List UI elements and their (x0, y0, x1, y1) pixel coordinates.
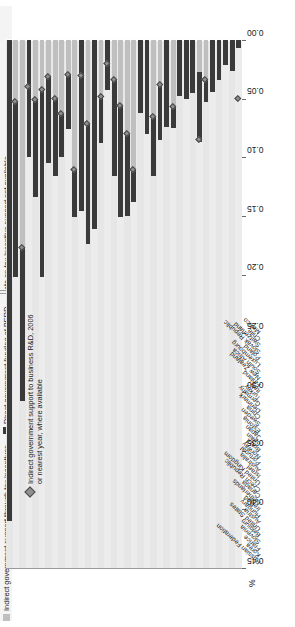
annotation-text: Indirect government support to business … (26, 314, 45, 484)
bar-row (177, 40, 182, 568)
category-axis: Russian FederationKoreaFranceSloveniaBel… (243, 41, 295, 569)
bar-row (210, 40, 215, 568)
bar-segment-indirect (118, 40, 123, 106)
bar-segment-direct (171, 107, 176, 128)
bar-row (164, 40, 169, 568)
bar-segment-direct (59, 114, 64, 157)
bar-row (223, 40, 228, 568)
bar-segment-indirect (151, 40, 156, 116)
bar-segment-direct (236, 40, 241, 48)
bar-segment-indirect (99, 40, 104, 96)
bar-segment-indirect (40, 40, 45, 89)
bar-row (59, 40, 64, 568)
bar-row (105, 40, 110, 568)
bar-segment-direct (125, 134, 130, 216)
bar-segment-direct (223, 40, 228, 65)
plot-area: Indirect government support to business … (6, 41, 242, 569)
bar-row (217, 40, 222, 568)
bar-segment-direct (138, 40, 143, 113)
bar-row (13, 40, 18, 568)
bar-segment-indirect (112, 40, 117, 80)
bar-row (158, 40, 163, 568)
chart-figure: Indirect government support through tax … (0, 0, 295, 627)
bar-segment-direct (72, 169, 77, 217)
bar-segment-direct (118, 106, 123, 217)
bar-segment-direct (164, 40, 169, 127)
bar-segment-direct (145, 40, 150, 134)
bar-segment-direct (33, 100, 38, 197)
axis-unit-label: % (247, 579, 257, 587)
bar-segment-direct (46, 76, 51, 163)
bar-row (20, 40, 25, 568)
axis-tick-label: 0.00 (247, 28, 264, 38)
chart-annotation: Indirect government support to business … (26, 314, 45, 496)
bar-segment-direct (230, 40, 235, 71)
bar-segment-indirect (204, 40, 209, 80)
bar-row (99, 40, 104, 568)
bar-segment-indirect (13, 40, 18, 101)
bar-row (138, 40, 143, 568)
bar-segment-indirect (86, 40, 91, 123)
bar-segment-direct (112, 80, 117, 176)
bar-segment-direct (53, 99, 58, 176)
bar-segment-indirect (125, 40, 130, 134)
bar-segment-direct (197, 72, 202, 142)
bar-row (125, 40, 130, 568)
bar-segment-indirect (46, 40, 51, 76)
bar-segment-indirect (158, 40, 163, 85)
bar-row (118, 40, 123, 568)
bar-segment-direct (86, 123, 91, 244)
bar-segment-direct (177, 40, 182, 96)
bar-row (66, 40, 71, 568)
bar-segment-indirect (131, 40, 136, 169)
bar-segment-indirect (53, 40, 58, 99)
bar-segment-direct (99, 96, 104, 143)
bar-segment-direct (184, 40, 189, 99)
bar-segment-indirect (33, 40, 38, 100)
bar-segment-direct (79, 40, 84, 211)
bar-segment-direct (13, 101, 18, 277)
bar-row (72, 40, 77, 568)
bar-row (53, 40, 58, 568)
bar-row (171, 40, 176, 568)
bar-segment-direct (151, 116, 156, 176)
bar-row (230, 40, 235, 568)
bar-segment-indirect (66, 40, 71, 74)
bar-row (79, 40, 84, 568)
bar-segment-direct (66, 74, 71, 129)
bar-row (7, 40, 12, 568)
bar-segment-direct (190, 40, 195, 93)
bar-row (46, 40, 51, 568)
bar-row (131, 40, 136, 568)
bar-row (190, 40, 195, 568)
bar-row (92, 40, 97, 568)
bar-segment-indirect (171, 40, 176, 107)
bar-segment-indirect (59, 40, 64, 114)
bar-segment-direct (40, 89, 45, 277)
bar-row (204, 40, 209, 568)
bar-segment-direct (210, 40, 215, 92)
bar-segment-indirect (197, 40, 202, 72)
diamond-marker-icon (24, 486, 35, 497)
bar-segment-direct (131, 169, 136, 202)
bar-segment-direct (20, 248, 25, 402)
bar-segment-direct (7, 40, 12, 521)
bar-segment-indirect (72, 40, 77, 169)
bar-segment-direct (92, 40, 97, 229)
bar-row (145, 40, 150, 568)
chart-canvas: Indirect government support through tax … (0, 0, 295, 627)
bar-row (184, 40, 189, 568)
bar-segment-direct (158, 85, 163, 140)
bar-segment-indirect (20, 40, 25, 248)
bar-row (112, 40, 117, 568)
legend-swatch-indirect-icon (3, 614, 10, 621)
bar-row (197, 40, 202, 568)
bar-segment-direct (217, 40, 222, 80)
